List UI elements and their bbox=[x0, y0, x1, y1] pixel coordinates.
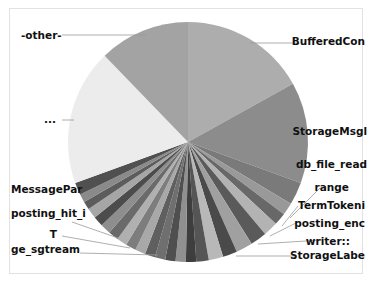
slice-label: -other- bbox=[21, 29, 62, 41]
slice-label: MessagePar bbox=[11, 183, 83, 195]
slice-label: writer:: bbox=[306, 235, 350, 247]
slice-label: ... bbox=[44, 113, 56, 125]
slice-label: StorageMsgl bbox=[292, 125, 367, 137]
slice-label: posting_hit_i bbox=[11, 207, 86, 220]
slice-label: db_file_read bbox=[296, 158, 367, 171]
slice-label: posting_enc bbox=[294, 217, 365, 230]
slice-label: StorageLabe bbox=[290, 249, 365, 261]
slice-label: BufferedCon bbox=[292, 35, 365, 47]
pie-slices bbox=[68, 22, 308, 262]
slice-label: TermTokeni bbox=[298, 199, 365, 211]
slice-label: range bbox=[315, 181, 349, 193]
slice-label: T bbox=[50, 228, 58, 240]
pie-chart: BufferedConStorageMsgldb_file_readrangeT… bbox=[0, 0, 373, 284]
slice-label: ge_sgtream bbox=[11, 243, 80, 256]
